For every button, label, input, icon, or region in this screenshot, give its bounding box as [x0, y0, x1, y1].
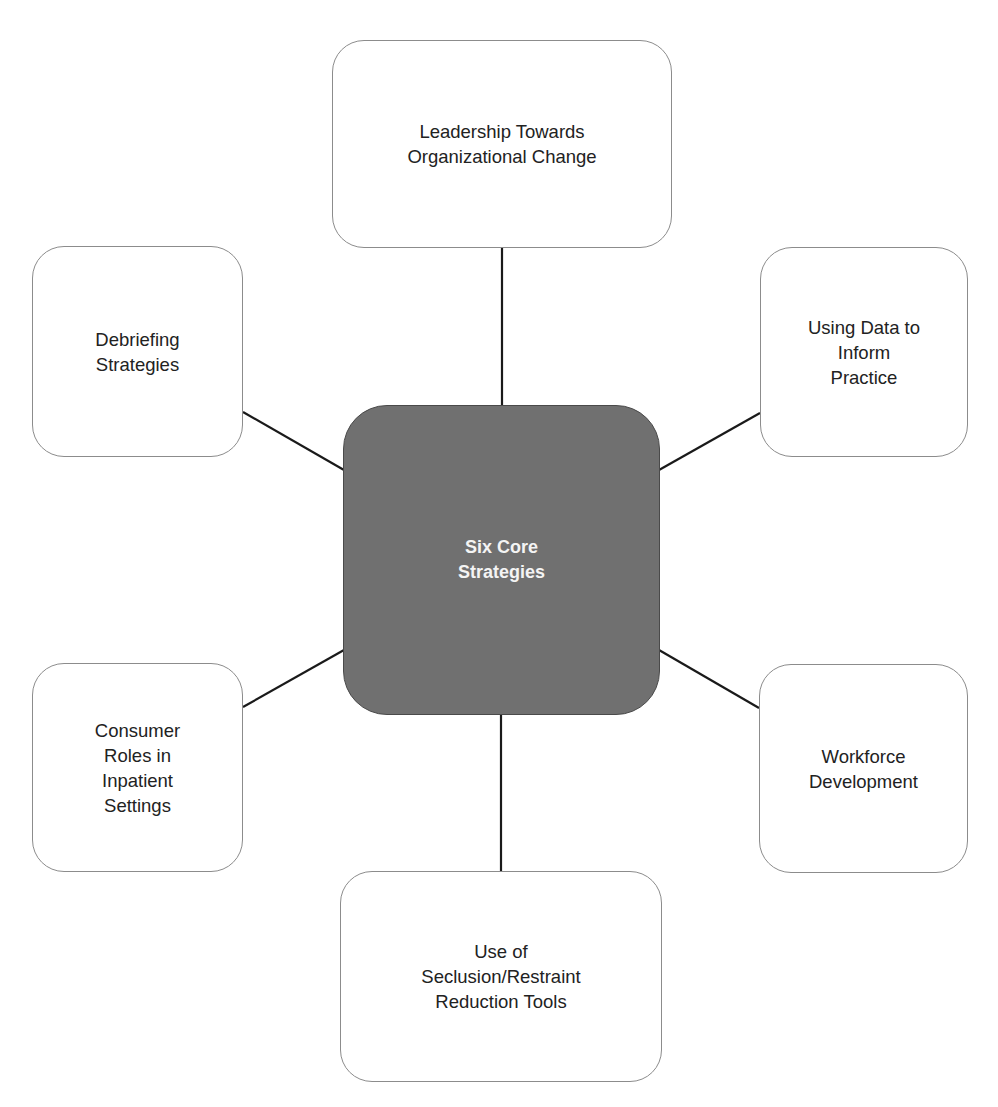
node-label: Use of Seclusion/Restraint Reduction Too… [421, 939, 580, 1014]
node-label: Workforce Development [809, 744, 918, 794]
connector-upper-left [243, 412, 344, 470]
node-seclusion-restraint: Use of Seclusion/Restraint Reduction Too… [340, 871, 662, 1082]
node-consumer-roles: Consumer Roles in Inpatient Settings [32, 663, 243, 872]
node-label: Using Data to Inform Practice [808, 315, 920, 390]
node-debriefing: Debriefing Strategies [32, 246, 243, 457]
connector-lower-right [659, 650, 759, 708]
node-center-six-core-strategies: Six Core Strategies [343, 405, 660, 715]
node-label: Debriefing Strategies [95, 327, 179, 377]
node-label: Leadership Towards Organizational Change [407, 119, 596, 169]
connector-upper-right [659, 413, 760, 470]
center-label: Six Core Strategies [458, 535, 545, 585]
node-workforce: Workforce Development [759, 664, 968, 873]
node-label: Consumer Roles in Inpatient Settings [95, 718, 180, 818]
node-leadership: Leadership Towards Organizational Change [332, 40, 672, 248]
connector-lower-left [243, 650, 344, 707]
node-using-data: Using Data to Inform Practice [760, 247, 968, 457]
